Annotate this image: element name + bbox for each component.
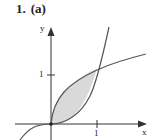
graph [0, 0, 153, 140]
x-tick-label: 1 [94, 128, 99, 138]
y-tick-label: 1 [39, 69, 44, 79]
curve-cubic [20, 27, 109, 140]
y-axis-arrow-icon [48, 27, 55, 36]
y-axis-label: y [40, 23, 45, 33]
origin-point [49, 122, 53, 126]
x-axis-label: x [142, 127, 147, 137]
